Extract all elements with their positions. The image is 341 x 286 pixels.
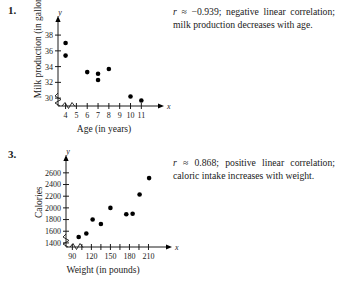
svg-text:x: x: [166, 102, 171, 111]
answer-body: ≈ 0.868; positive linear correlation; ca…: [173, 157, 335, 181]
x-axis-label: Age (in years): [56, 124, 152, 134]
data-point: [76, 235, 81, 240]
x-tick-label: 10: [127, 111, 135, 120]
x-tick-label: 90: [68, 252, 76, 261]
y-tick-label: 1600: [45, 227, 61, 236]
data-point: [108, 206, 113, 211]
data-point: [84, 231, 89, 236]
answer-text-3: r ≈ 0.868; positive linear correlation; …: [173, 157, 335, 182]
y-axis-label: Calories: [34, 171, 45, 233]
data-point: [130, 211, 135, 216]
data-point: [139, 98, 144, 103]
y-tick-label: 2000: [45, 204, 61, 213]
y-tick-label: 30: [45, 94, 53, 103]
data-point: [137, 192, 142, 197]
x-tick-label: 6: [85, 111, 89, 120]
data-point: [63, 41, 68, 46]
data-point: [96, 78, 101, 83]
problem-number: 3.: [8, 148, 16, 160]
data-point: [85, 70, 90, 75]
data-point: [96, 71, 101, 76]
x-tick-label: 210: [142, 252, 154, 261]
scatterplot-milk-production: Milk production (in gallons) Age (in yea…: [18, 6, 168, 138]
y-tick-label: 36: [45, 47, 53, 56]
x-tick-label: 11: [137, 111, 145, 120]
x-tick-label: 5: [74, 111, 78, 120]
data-point: [99, 222, 104, 227]
y-tick-label: 2200: [45, 192, 61, 201]
problem-1: 1. Milk production (in gallons) Age (in …: [0, 0, 341, 143]
x-tick-label: 120: [85, 252, 97, 261]
problem-number: 1.: [8, 4, 16, 16]
x-tick-label: 4: [64, 111, 68, 120]
data-point: [63, 53, 68, 58]
x-tick-label: 9: [118, 111, 122, 120]
y-tick-label: 2400: [45, 180, 61, 189]
svg-text:x: x: [174, 243, 179, 252]
y-tick-label: 1800: [45, 215, 61, 224]
x-axis-label: Weight (in pounds): [48, 265, 158, 275]
data-point: [147, 176, 152, 181]
svg-text:y: y: [65, 147, 70, 156]
y-axis-label: Milk production (in gallons): [33, 20, 44, 98]
data-point: [90, 217, 95, 222]
answer-body: ≈ −0.939; negative linear correlation; m…: [173, 6, 335, 30]
data-point: [124, 212, 129, 217]
y-tick-label: 32: [45, 78, 53, 87]
y-tick-label: 2600: [45, 169, 61, 178]
data-point: [128, 94, 133, 99]
answer-text-1: r ≈ −0.939; negative linear correlation;…: [173, 6, 335, 31]
x-tick-label: 180: [123, 252, 135, 261]
y-tick-label: 34: [45, 63, 53, 72]
svg-text:y: y: [57, 8, 62, 17]
problem-3: 3. Calories Weight (in pounds) yx1400160…: [0, 145, 341, 286]
x-tick-label: 7: [96, 111, 100, 120]
y-tick-label: 1400: [45, 239, 61, 248]
scatterplot-calories: Calories Weight (in pounds) yx1400160018…: [18, 149, 173, 281]
x-tick-label: 150: [104, 252, 116, 261]
data-point: [107, 67, 112, 72]
y-tick-label: 38: [45, 31, 53, 40]
x-tick-label: 8: [107, 111, 111, 120]
